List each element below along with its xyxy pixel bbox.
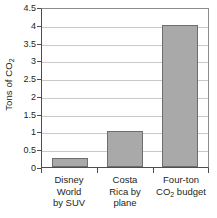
bar-slot [153, 9, 208, 167]
x-axis-tick-mark [208, 168, 209, 173]
x-axis-label-line: World [42, 186, 96, 198]
y-axis-title-main: Tons of CO [3, 62, 14, 111]
y-axis-tick-label: 2 [14, 92, 36, 101]
y-axis-tick-label: 4 [14, 21, 36, 30]
x-axis-category-labels: DisneyWorldby SUVCostaRica byplaneFour-t… [41, 174, 209, 218]
co2-subscript: 2 [170, 191, 174, 198]
y-axis-tick-label: 1 [14, 128, 36, 137]
plot-area [41, 8, 209, 168]
bar[interactable] [107, 131, 143, 167]
x-axis-label-line: CO2 budget [154, 186, 208, 199]
x-axis-tick-marks [41, 168, 209, 173]
x-axis-category-label: Four-tonCO2 budget [153, 174, 209, 218]
y-axis-tick-label: 0 [14, 164, 36, 173]
bar-slot [42, 9, 97, 167]
x-axis-label-line: Costa [98, 174, 152, 186]
bar[interactable] [162, 25, 198, 167]
bars-layer [42, 9, 208, 167]
y-axis-tick-label: 3 [14, 57, 36, 66]
y-axis-tick-labels: 00.511.522.533.544.5 [14, 8, 36, 168]
x-axis-tick-mark [97, 168, 98, 173]
bar-slot [97, 9, 152, 167]
y-axis-tick-label: 1.5 [14, 110, 36, 119]
x-axis-category-label: CostaRica byplane [97, 174, 153, 218]
x-axis-label-line: Rica by [98, 186, 152, 198]
x-axis-tick-mark [41, 168, 42, 173]
bar[interactable] [52, 158, 88, 167]
y-axis-tick-label: 4.5 [14, 4, 36, 13]
x-axis-tick-mark [153, 168, 154, 173]
x-axis-label-line: Disney [42, 174, 96, 186]
y-axis-tick-label: 0.5 [14, 146, 36, 155]
x-axis-category-label: DisneyWorldby SUV [41, 174, 97, 218]
x-axis-label-line: Four-ton [154, 174, 208, 186]
x-axis-label-line: by SUV [42, 197, 96, 209]
y-axis-tick-label: 2.5 [14, 75, 36, 84]
y-axis-title-text: Tons of CO2 [3, 58, 14, 111]
bar-chart-figure: Tons of CO2 00.511.522.533.544.5 DisneyW… [0, 0, 217, 218]
x-axis-label-line: plane [98, 197, 152, 209]
y-axis-tick-label: 3.5 [14, 39, 36, 48]
